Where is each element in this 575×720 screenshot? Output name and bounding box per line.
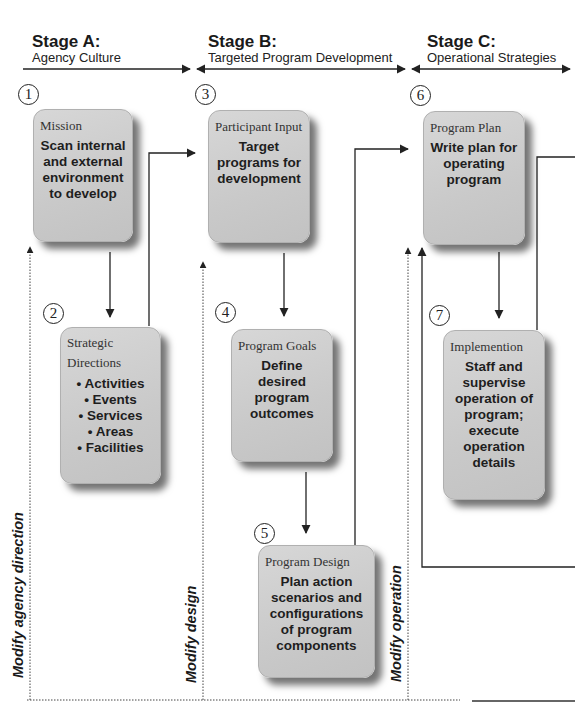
label-modify-agency-direction: Modify agency direction: [10, 512, 26, 678]
list-item-activities: • Activities: [61, 376, 160, 392]
stage-c-title: Stage C:: [427, 32, 496, 52]
step-body-participant-input: Target programs for development: [213, 139, 305, 187]
step-box-mission: Mission Scan internal and external envir…: [33, 109, 133, 242]
list-item-services: • Services: [61, 408, 160, 424]
step-number-7: 7: [429, 305, 450, 326]
step-box-strategic-directions: Strategic Directions • Activities • Even…: [60, 327, 161, 484]
stage-b-title: Stage B:: [208, 32, 277, 52]
step-label-implemention: Implemention: [450, 339, 523, 355]
step-number-6: 6: [410, 85, 431, 106]
list-item-facilities: • Facilities: [61, 440, 160, 456]
step-body-mission: Scan internal and external environment t…: [38, 138, 128, 202]
step-body-program-plan: Write plan for operating program: [428, 140, 520, 188]
step-box-participant-input: Participant Input Target programs for de…: [208, 110, 310, 243]
stage-a-title: Stage A:: [32, 32, 100, 52]
step-label-mission: Mission: [40, 118, 82, 134]
step-number-1: 1: [18, 84, 39, 105]
step-body-implemention: Staff and supervise operation of program…: [448, 359, 540, 471]
step-box-program-plan: Program Plan Write plan for operating pr…: [423, 111, 525, 245]
label-modify-operation: Modify operation: [388, 565, 404, 682]
label-modify-design: Modify design: [183, 586, 199, 683]
step-label-program-goals: Program Goals: [238, 338, 316, 354]
step-box-program-design: Program Design Plan action scenarios and…: [258, 545, 375, 678]
step-label-strategic-1: Strategic: [67, 335, 113, 351]
strategic-directions-list: • Activities • Events • Services • Areas…: [61, 376, 160, 456]
stage-c-subtitle: Operational Strategies: [427, 50, 556, 65]
step-label-program-design: Program Design: [265, 554, 350, 570]
step-box-implemention: Implemention Staff and supervise operati…: [443, 330, 545, 500]
list-item-events: • Events: [61, 392, 160, 408]
step-number-3: 3: [195, 84, 216, 105]
step-label-program-plan: Program Plan: [430, 120, 501, 136]
arrow-2-to-3: [149, 153, 195, 326]
stage-a-subtitle: Agency Culture: [32, 50, 121, 65]
list-item-areas: • Areas: [61, 424, 160, 440]
step-number-5: 5: [254, 523, 275, 544]
arrow-5-to-6: [355, 149, 408, 546]
step-box-program-goals: Program Goals Define desired program out…: [231, 329, 333, 462]
step-label-strategic-2: Directions: [67, 355, 121, 371]
stage-b-subtitle: Targeted Program Development: [208, 50, 392, 65]
step-number-4: 4: [215, 302, 236, 323]
step-number-2: 2: [43, 303, 64, 324]
step-body-program-goals: Define desired program outcomes: [236, 358, 328, 422]
step-body-program-design: Plan action scenarios and configurations…: [263, 574, 370, 654]
arrow-7-out: [537, 157, 575, 330]
step-label-participant-input: Participant Input: [215, 119, 302, 135]
